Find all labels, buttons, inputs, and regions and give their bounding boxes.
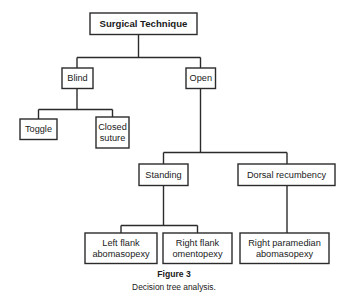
node-dorsal-recumbency[interactable]: Dorsal recumbency bbox=[238, 164, 335, 186]
figure-caption-title: Figure 3 bbox=[157, 269, 191, 279]
node-surgical-technique[interactable]: Surgical Technique bbox=[90, 13, 197, 35]
figure-caption: Figure 3 Decision tree analysis. bbox=[132, 269, 216, 292]
node-right-paramedian-abomasopexy[interactable]: Right paramedian abomasopexy bbox=[240, 233, 329, 264]
node-label-right-flank-line2: omentopexy bbox=[172, 249, 222, 259]
node-label-standing: Standing bbox=[145, 170, 181, 180]
node-label-right-flank-line1: Right flank bbox=[176, 238, 220, 248]
node-label-left-flank-line1: Left flank bbox=[102, 238, 140, 248]
node-blind[interactable]: Blind bbox=[62, 68, 93, 89]
figure-caption-subtitle: Decision tree analysis. bbox=[132, 282, 216, 292]
node-left-flank-abomasopexy[interactable]: Left flank abomasopexy bbox=[85, 233, 157, 264]
node-open[interactable]: Open bbox=[186, 68, 216, 89]
node-label-surgical-technique: Surgical Technique bbox=[100, 18, 188, 29]
node-label-blind: Blind bbox=[67, 73, 87, 83]
node-right-flank-omentopexy[interactable]: Right flank omentopexy bbox=[163, 233, 232, 264]
node-toggle[interactable]: Toggle bbox=[20, 119, 57, 140]
node-label-closed-suture-line2: suture bbox=[100, 133, 126, 143]
node-standing[interactable]: Standing bbox=[139, 164, 188, 186]
decision-tree-figure: Surgical Technique Blind Open Toggle Clo… bbox=[0, 0, 350, 303]
node-label-dorsal-recumbency: Dorsal recumbency bbox=[247, 170, 327, 180]
node-label-open: Open bbox=[190, 73, 212, 83]
node-label-right-paramedian-line2: abomasopexy bbox=[256, 249, 314, 259]
node-label-right-paramedian-line1: Right paramedian bbox=[248, 238, 321, 248]
node-label-toggle: Toggle bbox=[25, 124, 52, 134]
decision-tree-diagram: Surgical Technique Blind Open Toggle Clo… bbox=[0, 0, 350, 303]
connector-group bbox=[39, 35, 288, 234]
node-closed-suture[interactable]: Closed suture bbox=[96, 117, 129, 148]
node-label-left-flank-line2: abomasopexy bbox=[92, 249, 150, 259]
node-label-closed-suture-line1: Closed bbox=[98, 122, 127, 132]
